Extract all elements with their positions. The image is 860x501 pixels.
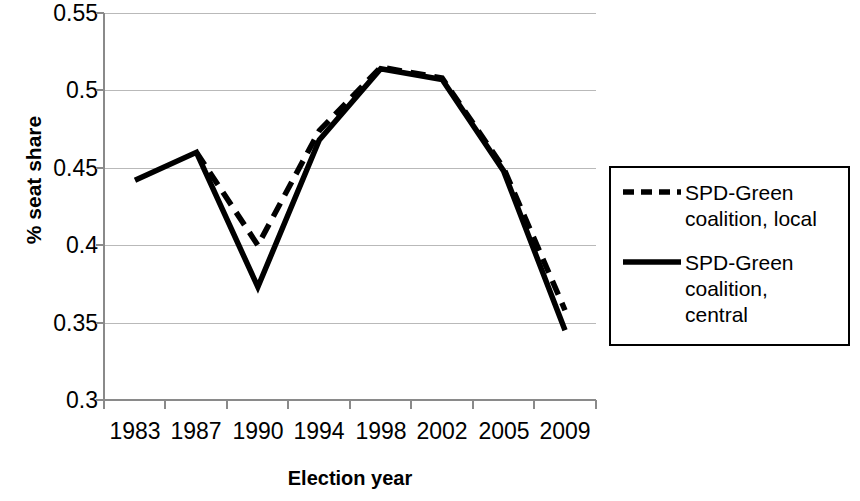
chart-figure: % seat share 0.55 0.5 0.45 0.4 0.35 0.3 <box>0 0 860 501</box>
x-tick-label: 2002 <box>416 420 467 443</box>
y-axis-tick-marks <box>96 13 104 400</box>
series-line-central <box>135 69 565 331</box>
x-axis-label: Election year <box>104 467 596 490</box>
gridlines <box>104 13 596 323</box>
x-tick-label: 1987 <box>170 420 221 443</box>
x-axis-tick-marks <box>104 400 596 409</box>
data-series-group <box>135 67 565 330</box>
axis-lines <box>104 13 596 400</box>
legend-item-central: SPD-Green coalition, central <box>621 250 794 328</box>
legend-label: SPD-Green coalition, local <box>685 180 817 232</box>
legend-dashed-line-icon <box>621 180 683 204</box>
legend-solid-line-icon <box>621 250 683 274</box>
legend-item-local: SPD-Green coalition, local <box>621 180 817 232</box>
x-tick-label: 1990 <box>232 420 283 443</box>
x-tick-label: 2005 <box>478 420 529 443</box>
legend: SPD-Green coalition, local SPD-Green coa… <box>609 166 850 346</box>
x-tick-label: 2009 <box>539 420 590 443</box>
x-tick-label: 1983 <box>109 420 160 443</box>
x-tick-label: 1998 <box>355 420 406 443</box>
legend-label: SPD-Green coalition, central <box>685 250 794 328</box>
x-tick-label: 1994 <box>293 420 344 443</box>
